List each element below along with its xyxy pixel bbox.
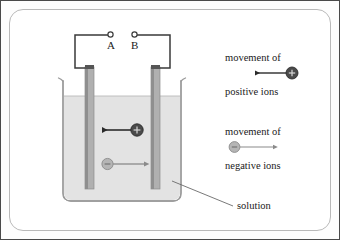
terminal-b-node[interactable] <box>132 32 137 37</box>
legend-negative-ion-glyph <box>229 142 273 153</box>
beaker-rim-right <box>181 78 186 81</box>
wire-right <box>137 35 170 68</box>
legend-negative-title: movement of <box>225 127 281 138</box>
terminal-a-label: A <box>107 40 115 51</box>
solution-fill <box>64 96 180 200</box>
legend-positive-title: movement of <box>225 53 281 64</box>
wire-left <box>75 35 108 68</box>
beaker-rim-left <box>59 78 64 81</box>
legend-negative-subtitle: negative ions <box>225 161 281 172</box>
electrode-left-contact <box>85 65 94 69</box>
terminal-b-label: B <box>131 40 138 51</box>
solution-label: solution <box>237 201 271 212</box>
diagram-screenshot: A B movement of positive ions movement o… <box>0 0 340 240</box>
electrode-right <box>151 67 160 189</box>
electrolysis-diagram <box>1 1 340 240</box>
legend-positive-ion-glyph <box>255 67 298 79</box>
electrode-left <box>85 67 94 189</box>
electrode-right-contact <box>151 65 160 69</box>
terminal-a-node[interactable] <box>108 32 113 37</box>
legend-positive-subtitle: positive ions <box>225 87 278 98</box>
